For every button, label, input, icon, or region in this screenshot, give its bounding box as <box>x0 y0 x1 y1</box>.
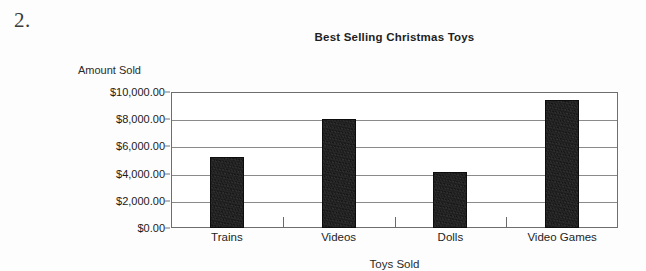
gridline <box>172 147 617 148</box>
chart-plot-area <box>171 92 618 228</box>
gridline <box>172 202 617 203</box>
y-axis-tick-label: $2,000.00 <box>65 195 165 207</box>
x-axis-label: Toys Sold <box>171 258 618 270</box>
x-axis-category-label: Videos <box>321 231 356 243</box>
worksheet-page: 2. Best Selling Christmas Toys Amount So… <box>0 0 646 271</box>
y-axis-tick-labels: $0.00$2,000.00$4,000.00$6,000.00$8,000.0… <box>62 92 165 228</box>
x-axis-category-label: Video Games <box>527 231 596 243</box>
y-axis-tick-mark <box>165 173 170 174</box>
y-axis-tick-label: $8,000.00 <box>65 113 165 125</box>
x-axis-category-label: Trains <box>211 231 243 243</box>
chart-title: Best Selling Christmas Toys <box>171 31 618 43</box>
question-number: 2. <box>14 8 31 33</box>
gridline <box>172 120 617 121</box>
y-axis-tick-mark <box>165 228 170 229</box>
y-axis-tick-mark <box>165 119 170 120</box>
y-axis-tick-mark <box>165 146 170 147</box>
y-axis-tick-label: $4,000.00 <box>65 168 165 180</box>
y-axis-label: Amount Sold <box>78 64 141 76</box>
y-axis-tick-label: $0.00 <box>65 222 165 234</box>
y-axis-tick-mark <box>165 200 170 201</box>
y-axis-tick-label: $10,000.00 <box>65 86 165 98</box>
gridline <box>172 175 617 176</box>
x-axis-category-labels: TrainsVideosDollsVideo Games <box>171 231 618 249</box>
x-axis-category-label: Dolls <box>438 231 464 243</box>
y-axis-tick-label: $6,000.00 <box>65 140 165 152</box>
y-axis-tick-mark <box>165 92 170 93</box>
